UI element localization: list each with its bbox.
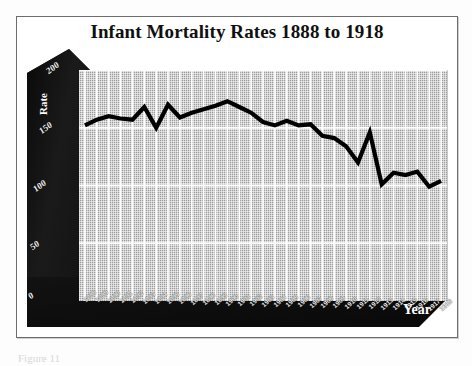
x-axis-tick-labels: 1888188918901891189218931894189518961897… (79, 298, 447, 332)
figure-container: Infant Mortality Rates 1888 to 1918 Rate… (0, 0, 472, 366)
chart-title: Infant Mortality Rates 1888 to 1918 (17, 21, 457, 43)
chart-3d-body: Rate 200 150 100 50 0 188818891890189118… (27, 49, 447, 327)
figure-caption: Figure 11 (18, 352, 60, 364)
x-tick-label: 1912 (367, 296, 382, 311)
x-axis-label: Year (403, 302, 431, 318)
data-line-series (79, 70, 447, 301)
chart-frame: Infant Mortality Rates 1888 to 1918 Rate… (16, 16, 458, 338)
y-axis-label: Rate (37, 93, 49, 115)
plot-panel (79, 70, 448, 301)
x-tick-label: 1918 (438, 297, 453, 312)
